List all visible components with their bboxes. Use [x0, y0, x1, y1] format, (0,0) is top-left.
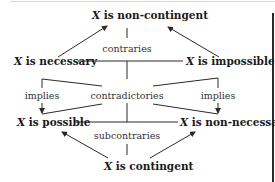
- node-label: is non-contingent: [100, 9, 208, 21]
- node-var: X: [186, 55, 194, 67]
- node-label: is contingent: [112, 160, 193, 172]
- node-var: X: [180, 116, 188, 128]
- right-lower-bracket: [153, 104, 218, 114]
- node-label: is non-necessary: [188, 116, 275, 128]
- arrow-necessary-to-noncontingent: [58, 26, 107, 57]
- left-lower-bracket: [42, 104, 102, 114]
- arrow-impossible-to-noncontingent: [168, 27, 219, 57]
- node-label: is possible: [25, 116, 90, 128]
- node-impossible: X is impossible: [186, 55, 275, 67]
- right-upper-bracket: [153, 78, 218, 88]
- node-non-necessary: X is non-necessary: [180, 116, 275, 128]
- node-var: X: [14, 55, 22, 67]
- left-upper-bracket: [42, 79, 102, 88]
- node-var: X: [17, 116, 25, 128]
- node-label: is necessary: [22, 55, 97, 67]
- node-label: is impossible: [194, 55, 274, 67]
- node-non-contingent: X is non-contingent: [92, 9, 208, 21]
- label-contraries: contraries: [102, 43, 151, 54]
- node-contingent: X is contingent: [104, 160, 193, 172]
- node-var: X: [104, 160, 112, 172]
- node-necessary: X is necessary: [14, 55, 97, 67]
- node-var: X: [92, 9, 100, 21]
- label-implies-right: implies: [201, 90, 236, 101]
- node-possible: X is possible: [17, 116, 91, 128]
- label-contradictories: contradictories: [90, 90, 163, 101]
- label-implies-left: implies: [25, 90, 60, 101]
- label-subcontraries: subcontraries: [94, 130, 160, 141]
